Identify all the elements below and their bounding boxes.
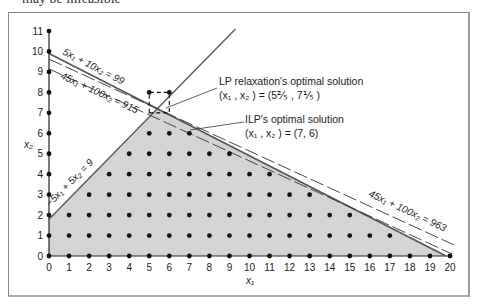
y-tick-label: 2 xyxy=(37,210,43,221)
x-tick-label: 14 xyxy=(324,262,336,273)
y-tick-label: 3 xyxy=(37,189,43,200)
integer-point xyxy=(207,192,212,197)
integer-point xyxy=(287,233,292,238)
integer-point xyxy=(207,151,212,156)
integer-point xyxy=(307,254,312,259)
integer-point xyxy=(408,254,413,259)
integer-point xyxy=(207,213,212,218)
integer-point xyxy=(107,192,112,197)
integer-point xyxy=(147,254,152,259)
integer-point xyxy=(47,110,52,115)
integer-point xyxy=(347,213,352,218)
label-objective-915: 45x₁ + 100x₂ = 915 xyxy=(59,70,140,116)
integer-point xyxy=(147,233,152,238)
integer-point xyxy=(107,172,112,177)
integer-point xyxy=(47,29,52,34)
y-tick-label: 11 xyxy=(33,26,44,37)
integer-point xyxy=(448,254,453,259)
integer-point xyxy=(47,151,52,156)
integer-point xyxy=(267,254,272,259)
ilp-annotation: ILP's optimal solution (x₁ , x₂ ) = (7, … xyxy=(190,113,344,139)
y-axis-label: x₂ xyxy=(23,139,33,150)
y-tick-label: 5 xyxy=(37,148,43,159)
integer-point xyxy=(307,233,312,238)
ilp-diagram: 0123456789101112131415161718192001234567… xyxy=(0,0,479,306)
integer-point xyxy=(87,254,92,259)
integer-point xyxy=(87,213,92,218)
integer-point xyxy=(127,213,132,218)
integer-point xyxy=(307,192,312,197)
integer-point xyxy=(187,172,192,177)
integer-point xyxy=(47,254,52,259)
integer-point xyxy=(327,254,332,259)
integer-point xyxy=(167,172,172,177)
integer-point xyxy=(47,131,52,136)
integer-point xyxy=(287,213,292,218)
integer-point xyxy=(147,131,152,136)
integer-point xyxy=(207,254,212,259)
integer-point xyxy=(227,172,232,177)
ilp-solution-value: (x₁ , x₂ ) = (7, 6) xyxy=(245,127,318,139)
integer-point xyxy=(147,151,152,156)
integer-point xyxy=(47,233,52,238)
lp-solution-value: (x₁ , x₂ ) = (5⅖ , 7⅕ ) xyxy=(219,89,320,101)
y-tick-label: 1 xyxy=(37,230,43,241)
integer-point xyxy=(107,254,112,259)
integer-point xyxy=(227,233,232,238)
y-tick-label: 0 xyxy=(37,251,43,262)
integer-point xyxy=(167,192,172,197)
integer-point xyxy=(187,233,192,238)
integer-point xyxy=(227,254,232,259)
integer-point xyxy=(127,172,132,177)
x-tick-label: 6 xyxy=(167,262,173,273)
integer-point xyxy=(187,131,192,136)
integer-point xyxy=(187,254,192,259)
x-tick-label: 5 xyxy=(146,262,152,273)
x-tick-label: 12 xyxy=(284,262,296,273)
integer-point xyxy=(127,254,132,259)
integer-point xyxy=(387,233,392,238)
integer-point xyxy=(107,233,112,238)
x-tick-label: 15 xyxy=(344,262,356,273)
integer-point xyxy=(147,172,152,177)
integer-point xyxy=(167,254,172,259)
integer-point xyxy=(387,254,392,259)
integer-point xyxy=(187,213,192,218)
x-axis-label: x₁ xyxy=(245,275,254,286)
integer-point xyxy=(247,213,252,218)
x-tick-label: 8 xyxy=(207,262,213,273)
x-tick-label: 19 xyxy=(424,262,436,273)
integer-point xyxy=(287,254,292,259)
integer-point xyxy=(247,233,252,238)
integer-point xyxy=(47,90,52,95)
integer-point xyxy=(47,49,52,54)
y-tick-label: 6 xyxy=(37,128,43,139)
integer-point xyxy=(267,192,272,197)
x-tick-label: 3 xyxy=(106,262,112,273)
integer-point xyxy=(367,254,372,259)
integer-point xyxy=(347,254,352,259)
x-tick-label: 18 xyxy=(404,262,416,273)
integer-point xyxy=(247,172,252,177)
integer-point xyxy=(67,233,72,238)
lp-annotation: LP relaxation's optimal solution (x₁ , x… xyxy=(166,75,363,108)
lp-solution-title: LP relaxation's optimal solution xyxy=(219,75,363,87)
integer-point xyxy=(267,172,272,177)
y-tick-label: 7 xyxy=(37,107,43,118)
integer-point xyxy=(167,213,172,218)
integer-point xyxy=(127,151,132,156)
integer-point xyxy=(267,213,272,218)
y-tick-label: 10 xyxy=(32,46,44,57)
y-tick-label: 9 xyxy=(37,66,43,77)
integer-point xyxy=(147,213,152,218)
integer-point xyxy=(107,213,112,218)
integer-point xyxy=(227,192,232,197)
integer-point xyxy=(367,233,372,238)
integer-point xyxy=(347,233,352,238)
integer-point xyxy=(247,192,252,197)
x-tick-label: 20 xyxy=(444,262,456,273)
integer-point xyxy=(327,233,332,238)
x-tick-label: 4 xyxy=(126,262,132,273)
integer-point xyxy=(327,213,332,218)
x-tick-label: 7 xyxy=(187,262,193,273)
